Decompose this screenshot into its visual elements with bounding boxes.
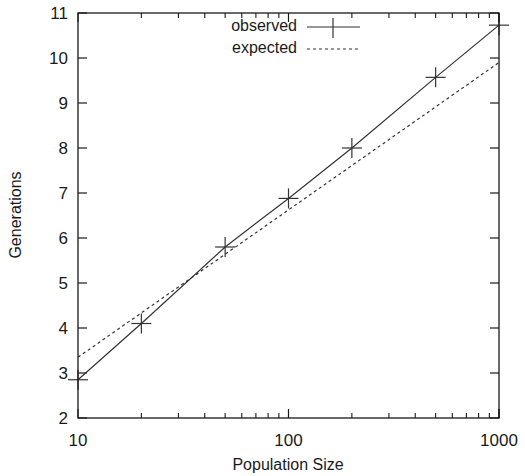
legend-label-observed: observed xyxy=(231,17,297,34)
y-tick-label: 2 xyxy=(59,409,68,428)
legend: observed expected xyxy=(231,17,360,56)
x-tick-label: 1000 xyxy=(480,431,518,450)
x-axis-ticks: 101001000 xyxy=(69,13,518,450)
y-tick-label: 9 xyxy=(59,94,68,113)
y-axis-label: Generations xyxy=(7,171,24,258)
x-axis-label: Population Size xyxy=(232,456,343,473)
plot-series xyxy=(68,15,509,390)
x-tick-label: 10 xyxy=(69,431,88,450)
y-tick-label: 6 xyxy=(59,229,68,248)
y-tick-label: 10 xyxy=(49,49,68,68)
chart-canvas: 234567891011 101001000 observed expected… xyxy=(0,0,525,476)
x-tick-label: 100 xyxy=(274,431,302,450)
y-tick-label: 3 xyxy=(59,364,68,383)
series-line-expected xyxy=(78,63,499,358)
y-tick-label: 8 xyxy=(59,139,68,158)
y-tick-label: 11 xyxy=(50,4,68,23)
y-tick-label: 5 xyxy=(59,274,68,293)
y-tick-label: 7 xyxy=(59,184,68,203)
y-axis-ticks: 234567891011 xyxy=(49,4,499,428)
y-tick-label: 4 xyxy=(59,319,68,338)
legend-label-expected: expected xyxy=(232,39,297,56)
